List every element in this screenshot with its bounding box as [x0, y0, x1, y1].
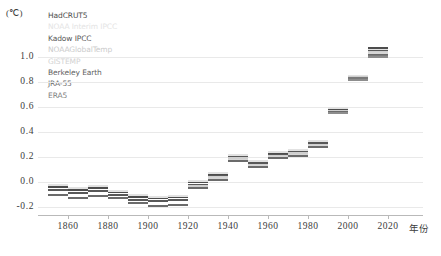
data-mark — [108, 197, 128, 199]
decade-group — [268, 8, 288, 215]
x-axis-tick-label: 1860 — [58, 221, 79, 231]
x-axis-tick — [68, 215, 69, 219]
data-mark — [128, 199, 148, 201]
decade-group — [308, 8, 328, 215]
data-mark — [168, 204, 188, 206]
y-axis-tick-labels: 1.00.80.60.40.20.0-0.2 — [0, 0, 34, 256]
y-axis-tick-label: -0.2 — [17, 201, 34, 211]
y-axis-tick-label: 0.0 — [20, 176, 34, 186]
data-mark — [168, 195, 188, 197]
data-mark — [128, 194, 148, 196]
data-mark — [148, 200, 168, 202]
decade-group — [48, 8, 68, 215]
data-mark — [348, 79, 368, 81]
decade-group — [248, 8, 268, 215]
data-mark — [88, 185, 108, 187]
data-mark — [368, 56, 388, 58]
decade-group — [348, 8, 368, 215]
data-mark — [248, 166, 268, 168]
x-axis-tick — [188, 215, 189, 219]
decade-group — [188, 8, 208, 215]
y-axis-tick-label: 0.4 — [20, 126, 34, 136]
decade-group — [288, 8, 308, 215]
data-mark — [68, 197, 88, 199]
x-axis-tick — [388, 215, 389, 219]
y-axis-tick-label: 0.6 — [20, 101, 34, 111]
data-mark — [48, 184, 68, 186]
decade-group — [128, 8, 148, 215]
x-axis-tick-label: 1920 — [178, 221, 199, 231]
x-axis-tick — [228, 215, 229, 219]
data-mark — [188, 180, 208, 182]
data-mark — [268, 157, 288, 159]
data-mark — [128, 202, 148, 204]
decade-group — [108, 8, 128, 215]
data-mark — [308, 146, 328, 148]
decade-group — [168, 8, 188, 215]
x-axis-title: 年份 — [409, 221, 429, 235]
decade-group — [88, 8, 108, 215]
y-axis-tick-label: 1.0 — [20, 51, 34, 61]
decade-group — [328, 8, 348, 215]
data-mark — [48, 189, 68, 191]
temperature-anomaly-chart: (℃) 1.00.80.60.40.20.0-0.2 HadCRUT5NOAA … — [0, 0, 441, 256]
x-axis-tick-label: 2000 — [338, 221, 359, 231]
data-mark — [88, 190, 108, 192]
x-axis-tick-label: 1980 — [298, 221, 319, 231]
data-mark — [88, 195, 108, 197]
data-mark — [328, 112, 348, 114]
x-axis-tick-label: 1880 — [98, 221, 119, 231]
x-axis-tick — [308, 215, 309, 219]
x-axis-tick-label: 1900 — [138, 221, 159, 231]
data-mark — [288, 155, 308, 157]
data-mark — [108, 190, 128, 192]
x-axis-tick-label: 1940 — [218, 221, 239, 231]
plot-area: 186018801900192019401960198020002020 — [38, 8, 423, 215]
data-mark — [148, 205, 168, 207]
y-axis-tick-label: 0.8 — [20, 76, 34, 86]
x-axis-line — [38, 215, 423, 216]
data-mark — [48, 194, 68, 196]
decade-group — [148, 8, 168, 215]
data-mark — [188, 187, 208, 189]
x-axis-tick-label: 1960 — [258, 221, 279, 231]
decade-group — [228, 8, 248, 215]
data-mark — [148, 196, 168, 198]
data-mark — [68, 192, 88, 194]
decade-group — [368, 8, 388, 215]
decade-group — [208, 8, 228, 215]
data-mark — [168, 199, 188, 201]
data-mark — [68, 187, 88, 189]
x-axis-tick — [148, 215, 149, 219]
decade-group — [68, 8, 88, 215]
data-mark — [208, 179, 228, 181]
data-mark — [228, 160, 248, 162]
x-axis-tick — [268, 215, 269, 219]
x-axis-tick — [348, 215, 349, 219]
x-axis-tick — [108, 215, 109, 219]
x-axis-tick-label: 2020 — [378, 221, 399, 231]
data-mark — [108, 194, 128, 196]
y-axis-tick-label: 0.2 — [20, 151, 34, 161]
